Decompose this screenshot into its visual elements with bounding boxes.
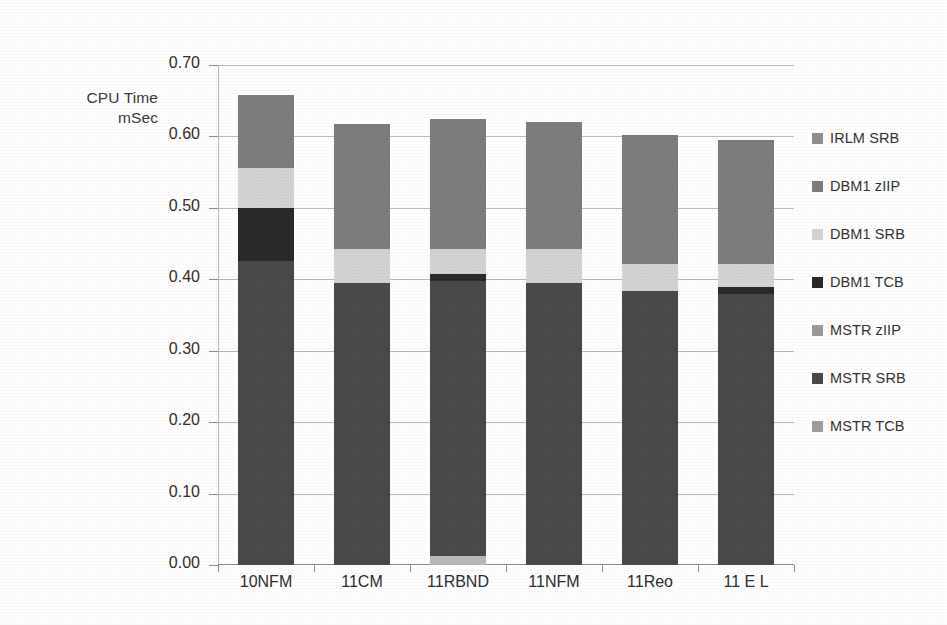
bar-stack[interactable]: [622, 65, 678, 565]
gridline: [218, 279, 794, 280]
x-tick-mark: [794, 565, 795, 572]
gridline: [218, 208, 794, 209]
x-axis-label: 11RBND: [410, 573, 506, 591]
bar-segment[interactable]: [718, 294, 774, 565]
y-tick-mark: [209, 351, 218, 352]
bar-segment[interactable]: [718, 140, 774, 264]
gridline: [218, 422, 794, 423]
gridline: [218, 494, 794, 495]
chart-legend: IRLM SRBDBM1 zIIPDBM1 SRBDBM1 TCBMSTR zI…: [812, 129, 942, 465]
bar-segment[interactable]: [238, 95, 294, 168]
y-tick-mark: [209, 136, 218, 137]
legend-label: IRLM SRB: [830, 130, 899, 146]
gridline: [218, 351, 794, 352]
y-tick-mark: [209, 565, 218, 566]
legend-swatch-icon: [812, 229, 823, 240]
chart-figure: CPU Time mSec 0.700.600.500.400.300.200.…: [0, 0, 947, 625]
legend-label: DBM1 TCB: [830, 274, 904, 290]
bar-stack[interactable]: [526, 65, 582, 565]
bar-stack[interactable]: [238, 65, 294, 565]
legend-item[interactable]: IRLM SRB: [812, 129, 942, 147]
y-tick-label: 0.00: [138, 554, 200, 572]
legend-item[interactable]: DBM1 SRB: [812, 225, 942, 243]
bar-segment[interactable]: [334, 249, 390, 283]
bar-segment[interactable]: [526, 283, 582, 565]
legend-item[interactable]: DBM1 TCB: [812, 273, 942, 291]
y-tick-label: 0.40: [138, 268, 200, 286]
y-tick-label: 0.10: [138, 483, 200, 501]
y-tick-mark: [209, 208, 218, 209]
x-axis-label: 10NFM: [218, 573, 314, 591]
legend-swatch-icon: [812, 277, 823, 288]
legend-item[interactable]: MSTR zIIP: [812, 321, 942, 339]
legend-label: MSTR TCB: [830, 418, 905, 434]
x-axis-label: 11CM: [314, 573, 410, 591]
x-tick-mark: [410, 565, 411, 572]
bar-segment[interactable]: [238, 208, 294, 262]
bar-segment[interactable]: [334, 124, 390, 249]
legend-item[interactable]: MSTR TCB: [812, 417, 942, 435]
x-axis-label: 11 E L: [698, 573, 794, 591]
bar-segment[interactable]: [430, 249, 486, 275]
legend-swatch-icon: [812, 373, 823, 384]
bar-segment[interactable]: [622, 264, 678, 291]
plot-area: 0.700.600.500.400.300.200.100.00 10NFM11…: [218, 65, 794, 565]
legend-label: MSTR SRB: [830, 370, 906, 386]
bar-stack[interactable]: [334, 65, 390, 565]
bar-segment[interactable]: [334, 283, 390, 565]
bar-segment[interactable]: [718, 287, 774, 294]
x-axis-label: 11Reo: [602, 573, 698, 591]
bar-segment[interactable]: [526, 122, 582, 249]
bar-segment[interactable]: [238, 261, 294, 565]
bar-segment[interactable]: [430, 281, 486, 556]
x-tick-mark: [314, 565, 315, 572]
bar-stack[interactable]: [718, 65, 774, 565]
y-axis-line: [218, 65, 219, 565]
x-tick-mark: [218, 565, 219, 572]
legend-swatch-icon: [812, 133, 823, 144]
bar-segment[interactable]: [622, 135, 678, 264]
bar-segment[interactable]: [622, 291, 678, 565]
x-tick-mark: [602, 565, 603, 572]
y-tick-label: 0.30: [138, 340, 200, 358]
legend-label: DBM1 zIIP: [830, 178, 900, 194]
gridline: [218, 65, 794, 66]
y-axis-title: CPU Time mSec: [18, 88, 158, 128]
bar-segment[interactable]: [718, 264, 774, 287]
legend-swatch-icon: [812, 325, 823, 336]
x-tick-mark: [506, 565, 507, 572]
bar-stack[interactable]: [430, 65, 486, 565]
y-tick-label: 0.70: [138, 54, 200, 72]
bar-segment[interactable]: [238, 168, 294, 208]
bar-segment[interactable]: [430, 556, 486, 565]
bar-segment[interactable]: [430, 274, 486, 281]
y-tick-label: 0.20: [138, 411, 200, 429]
y-tick-mark: [209, 279, 218, 280]
legend-label: DBM1 SRB: [830, 226, 905, 242]
bar-segment[interactable]: [430, 119, 486, 249]
legend-swatch-icon: [812, 181, 823, 192]
legend-swatch-icon: [812, 421, 823, 432]
legend-label: MSTR zIIP: [830, 322, 901, 338]
y-tick-mark: [209, 494, 218, 495]
y-tick-label: 0.50: [138, 197, 200, 215]
gridline: [218, 136, 794, 137]
bar-segment[interactable]: [526, 249, 582, 283]
y-tick-mark: [209, 65, 218, 66]
y-tick-label: 0.60: [138, 125, 200, 143]
y-tick-mark: [209, 422, 218, 423]
x-tick-mark: [698, 565, 699, 572]
x-axis-label: 11NFM: [506, 573, 602, 591]
legend-item[interactable]: MSTR SRB: [812, 369, 942, 387]
legend-item[interactable]: DBM1 zIIP: [812, 177, 942, 195]
